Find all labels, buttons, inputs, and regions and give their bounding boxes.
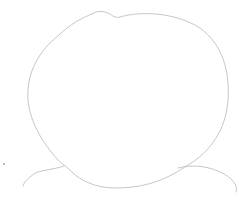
stray-dot	[3, 163, 5, 165]
left-shoulder-line	[23, 166, 64, 186]
head-outline	[28, 11, 228, 188]
sketch-canvas	[0, 0, 252, 208]
right-shoulder-line	[178, 166, 237, 192]
